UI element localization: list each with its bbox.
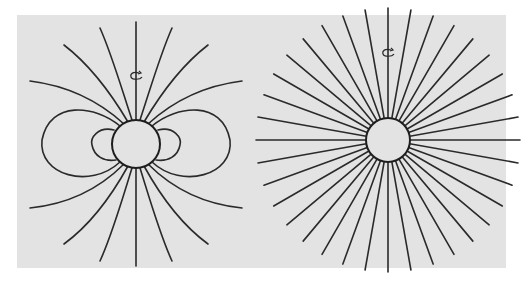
- dipole-large-loop-left: [42, 110, 120, 177]
- dipole-large-loop-right: [152, 110, 230, 177]
- dipole-sphere: [112, 120, 160, 168]
- radial-sphere: [366, 118, 410, 162]
- field-line-diagram: [0, 0, 523, 285]
- dipole-field-panel: [30, 22, 242, 266]
- radial-field-panel: [256, 8, 520, 272]
